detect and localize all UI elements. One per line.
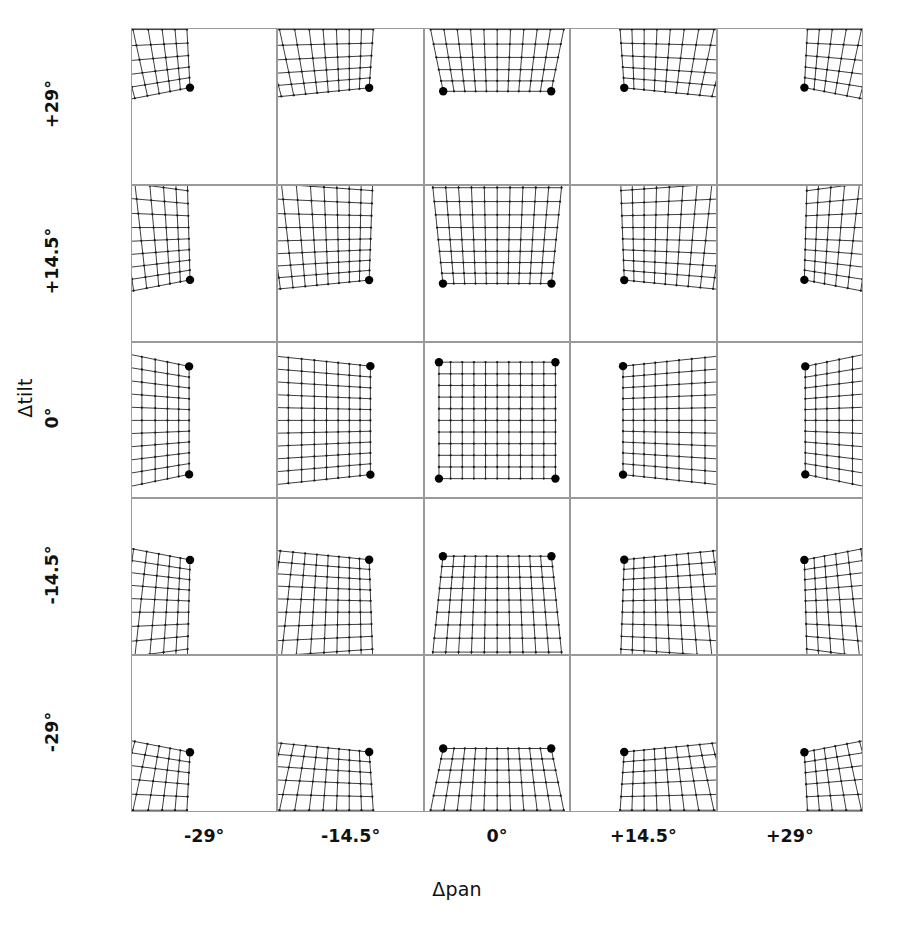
mesh-node (632, 636, 634, 638)
mesh-node (496, 272, 498, 274)
mesh-node (496, 80, 498, 82)
mesh-node (519, 361, 521, 363)
mesh-node (654, 430, 656, 432)
mesh-node (850, 766, 852, 768)
mesh-node (279, 809, 281, 811)
mesh-node (360, 624, 362, 626)
mesh-line-vertical (462, 749, 475, 811)
mesh-node (643, 557, 645, 559)
mesh-node (530, 576, 532, 578)
mesh-node (141, 457, 143, 459)
mesh-line-vertical (629, 29, 634, 89)
mesh-node (461, 250, 463, 252)
mesh-node (462, 576, 464, 578)
mesh-node (312, 625, 314, 627)
mesh-node (166, 372, 168, 374)
mesh-node (288, 766, 290, 768)
mesh-node (349, 249, 351, 251)
mesh-node (829, 651, 831, 653)
mesh-node (678, 371, 680, 373)
mesh-node (850, 252, 852, 254)
mesh-node (316, 92, 318, 94)
mesh-node (632, 783, 634, 785)
mesh-node (654, 465, 656, 467)
mesh-node (839, 226, 841, 228)
mesh-node (691, 419, 693, 421)
mesh-node (803, 269, 805, 271)
mesh-node (177, 600, 179, 602)
mesh-node (643, 271, 645, 273)
mesh-node (348, 43, 350, 45)
mesh-line-horizontal (278, 442, 370, 447)
mesh-node (349, 600, 351, 602)
mesh-node (179, 557, 181, 559)
mesh-node (805, 214, 807, 216)
mesh-node (632, 771, 634, 773)
mesh-corner-marker-0 (800, 748, 808, 756)
mesh-node (666, 360, 668, 362)
mesh-node (714, 276, 716, 278)
mesh-node (518, 272, 520, 274)
mesh-line-vertical (425, 29, 443, 91)
mesh-node (851, 457, 853, 459)
mesh-node (507, 748, 509, 750)
mesh-node (687, 285, 689, 287)
mesh-node (496, 68, 498, 70)
mesh-node (154, 468, 156, 470)
mesh-node (168, 272, 170, 274)
mesh-line-horizontal (805, 351, 862, 377)
mesh-node (326, 250, 328, 252)
mesh-node (161, 29, 163, 31)
mesh-corner-marker-1 (365, 556, 373, 564)
mesh-node (688, 274, 690, 276)
mesh-node (544, 611, 546, 613)
mesh-line-horizontal (805, 431, 862, 438)
mesh-node (188, 77, 190, 79)
mesh-node (327, 555, 329, 557)
mesh-node (166, 454, 168, 456)
mesh-node (349, 611, 351, 613)
mesh-node (156, 82, 158, 84)
mesh-node (337, 782, 339, 784)
mesh-node (473, 250, 475, 252)
mesh-node (157, 564, 159, 566)
mesh-node (814, 589, 816, 591)
mesh-node (141, 482, 143, 484)
mesh-node (518, 80, 520, 82)
mesh-node (496, 213, 498, 215)
mesh-node (373, 29, 375, 31)
mesh-node (694, 625, 696, 627)
mesh-node (370, 451, 372, 453)
mesh-node (485, 282, 487, 284)
mesh-node (530, 758, 532, 760)
mesh-node (338, 758, 340, 760)
mesh-node (187, 226, 189, 228)
mesh-node (348, 795, 350, 797)
mesh-node (150, 639, 152, 641)
mesh-node (338, 588, 340, 590)
mesh-node (701, 83, 703, 85)
mesh-node (359, 441, 361, 443)
mesh-line-horizontal (132, 649, 188, 654)
mesh-node (508, 637, 510, 639)
mesh-node (315, 564, 317, 566)
mesh-node (280, 550, 282, 552)
mesh-node (314, 251, 316, 253)
mesh-node (158, 553, 160, 555)
mesh-line-vertical (162, 556, 170, 654)
mesh-node (682, 186, 684, 187)
mesh-node (803, 77, 805, 79)
mesh-node (827, 56, 829, 58)
mesh-node (519, 599, 521, 601)
mesh-line-horizontal (624, 280, 715, 291)
mesh-node (337, 476, 339, 478)
mesh-node (188, 451, 190, 453)
mesh-node (360, 55, 362, 57)
mesh-node (470, 795, 472, 797)
mesh-corner-marker-3 (547, 279, 555, 287)
mesh-node (632, 611, 634, 613)
mesh-node (623, 579, 625, 581)
mesh-node (654, 407, 656, 409)
mesh-node (325, 226, 327, 228)
mesh-node (546, 637, 548, 639)
